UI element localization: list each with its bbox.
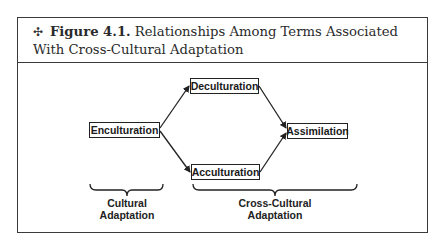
group-label-line: Adaptation <box>87 209 167 221</box>
group-label-cross-cultural: Cross-Cultural Adaptation <box>225 197 325 221</box>
arrow-enculturation-acculturation <box>160 131 190 172</box>
group-label-cultural: Cultural Adaptation <box>87 197 167 221</box>
arrow-acculturation-assimilation <box>260 133 286 172</box>
brace-cultural <box>90 184 163 196</box>
node-enculturation: Enculturation <box>89 122 160 138</box>
node-assimilation: Assimilation <box>287 123 348 139</box>
group-label-line: Adaptation <box>225 209 325 221</box>
arrow-enculturation-deculturation <box>160 86 189 128</box>
group-label-line: Cultural <box>87 197 167 209</box>
brace-cross-cultural <box>193 184 357 196</box>
group-label-line: Cross-Cultural <box>225 197 325 209</box>
node-deculturation: Deculturation <box>190 78 259 94</box>
node-acculturation: Acculturation <box>191 164 260 180</box>
arrow-deculturation-assimilation <box>259 86 286 128</box>
diagram-connectors <box>0 0 446 247</box>
